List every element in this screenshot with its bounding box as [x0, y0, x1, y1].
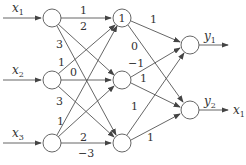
- input-label-x2: x2: [12, 63, 24, 79]
- weight-in2-h1: 1: [58, 56, 65, 69]
- weight-h2-o1: −1: [128, 57, 144, 70]
- hidden-node-1-label: 1: [119, 12, 126, 25]
- input-label-x1: x1: [12, 1, 24, 17]
- weight-in3-h1: 3: [56, 95, 63, 108]
- output-label-y1: y1: [203, 29, 216, 45]
- weight-labels: 1 2 3 1 0 3 1 2 −3 1 0 −1 1 1 1: [56, 4, 157, 160]
- neural-network-diagram: 1 x1 x2 x3 y1 y2 x1 1 2 3 1 0 3 1 2 −3 1…: [0, 0, 246, 165]
- weight-h3-o2: 1: [147, 131, 154, 144]
- weight-h2-o2: 1: [140, 72, 147, 85]
- weight-in2-h2: 0: [70, 66, 77, 79]
- input-node-2: [43, 71, 61, 89]
- input-node-1: [43, 9, 61, 27]
- weight-h1-o1: 1: [150, 13, 157, 26]
- weight-in1-h3: 3: [56, 38, 63, 51]
- nodes: [43, 9, 199, 152]
- output-extra-label-x1: x1: [233, 103, 245, 119]
- output-node-2: [181, 101, 199, 119]
- weight-in3-h3-a: 2: [80, 131, 87, 144]
- weight-in1-h1-a: 1: [80, 4, 87, 17]
- output-node-1: [181, 36, 199, 54]
- hidden-node-2: [113, 71, 131, 89]
- weight-in3-h2: 1: [57, 115, 64, 128]
- input-label-x3: x3: [12, 126, 24, 142]
- weight-h1-o2: 0: [131, 40, 138, 53]
- output-label-y2: y2: [203, 94, 216, 110]
- input-node-3: [43, 134, 61, 152]
- weight-in1-h1-b: 2: [80, 20, 87, 33]
- weight-h3-o1: 1: [131, 100, 138, 113]
- weight-in3-h3-b: −3: [78, 147, 94, 160]
- hidden-node-3: [113, 134, 131, 152]
